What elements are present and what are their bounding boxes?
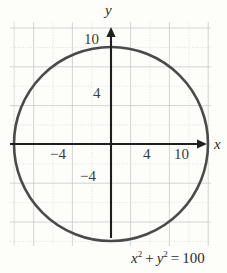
y-axis-label: y [105, 3, 112, 18]
equation-plus-sign: + [145, 250, 153, 266]
equation-right-side: 100 [182, 250, 205, 266]
x-tick-label-minus-4: −4 [50, 147, 66, 162]
circle-graph-figure: y x 10 4 −4 −4 4 10 x2+y2=100 [0, 0, 227, 273]
y-tick-label-10: 10 [84, 32, 99, 47]
x-axis-label: x [214, 137, 221, 152]
equation-x-var: x [131, 250, 138, 266]
y-tick-label-minus-4: −4 [80, 169, 96, 184]
plot-canvas [0, 0, 227, 273]
x-tick-label-10: 10 [174, 147, 189, 162]
equation-equals-sign: = [171, 250, 179, 266]
y-tick-label-4: 4 [93, 86, 101, 101]
equation-caption: x2+y2=100 [131, 251, 205, 266]
equation-x-exponent: 2 [138, 249, 143, 259]
equation-y-exponent: 2 [163, 249, 168, 259]
y-axis [106, 27, 115, 238]
x-tick-label-4: 4 [143, 147, 151, 162]
